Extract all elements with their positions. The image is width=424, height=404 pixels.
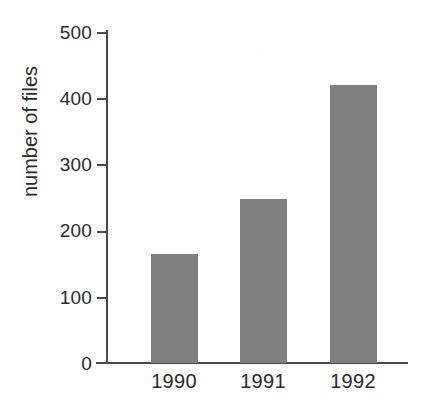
y-tick-label-200: 200: [36, 221, 92, 240]
bar-1990: [151, 254, 198, 363]
bar-1992: [330, 85, 377, 363]
y-tick-label-100: 100: [36, 288, 92, 307]
y-tick-label-400: 400: [36, 89, 92, 108]
y-axis-title: number of files: [19, 32, 42, 232]
y-tick-label-0-wrap: 0: [30, 354, 92, 374]
y-tick-label-500: 500: [36, 23, 92, 42]
plot-area: [107, 32, 408, 363]
y-tick-label-500-wrap: 500: [30, 23, 92, 43]
bar-1991: [240, 199, 287, 363]
x-tick-label-1990: 1990: [134, 369, 214, 393]
y-tick-label-0: 0: [36, 354, 92, 373]
y-tick-label-100-wrap: 100: [30, 288, 92, 308]
y-tick-label-400-wrap: 400: [30, 89, 92, 109]
y-tick-label-200-wrap: 200: [30, 221, 92, 241]
x-tick-label-1991: 1991: [223, 369, 303, 393]
chart-figure: number of files 500 400 300 200 100 0 19…: [0, 0, 424, 404]
x-tick-label-1992: 1992: [313, 369, 393, 393]
y-tick-label-300: 300: [36, 155, 92, 174]
y-tick-label-300-wrap: 300: [30, 155, 92, 175]
